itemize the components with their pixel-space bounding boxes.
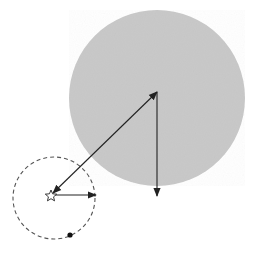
small-body-dot <box>67 232 72 237</box>
diagram-canvas <box>0 0 257 254</box>
